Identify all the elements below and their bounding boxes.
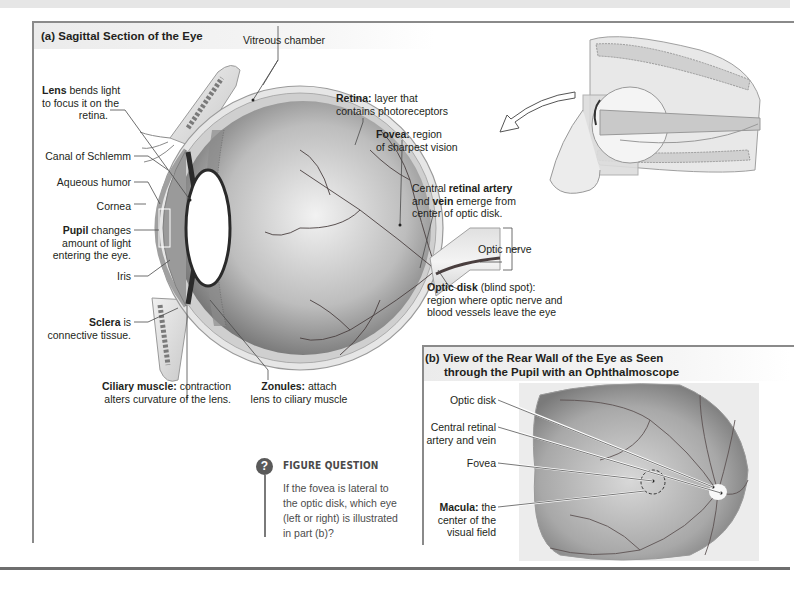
label-optic-nerve: Optic nerve <box>478 243 532 256</box>
label-b-optic-disk: Optic disk <box>420 394 496 407</box>
figure-question-title: FIGURE QUESTION <box>283 459 379 471</box>
figure-question-rule <box>264 475 266 537</box>
label-sclera: Sclera is connective tissue. <box>30 316 131 341</box>
label-retina: Retina: layer that contains photorecepto… <box>336 92 448 117</box>
aqueous-humor <box>163 150 186 306</box>
label-pupil: Pupil changes amount of light entering t… <box>30 224 131 262</box>
label-vitreous-chamber: Vitreous chamber <box>243 34 325 47</box>
label-b-fovea: Fovea <box>420 457 496 470</box>
label-ciliary-muscle: Ciliary muscle: contraction alters curva… <box>96 380 231 405</box>
label-central-retinal-artery: Central retinal artery and vein emerge f… <box>412 182 516 220</box>
label-optic-disk: Optic disk (blind spot): region where op… <box>427 281 562 319</box>
side-view-eye-orbit <box>550 37 760 194</box>
label-zonules: Zonules: attach lens to ciliary muscle <box>244 380 354 405</box>
question-icon: ? <box>256 458 273 475</box>
label-fovea: Fovea: region of sharpest vision <box>376 128 458 153</box>
label-iris: Iris <box>30 270 131 283</box>
label-lens: Lens bends light to focus it on the reti… <box>42 84 108 122</box>
label-b-macula: Macula: the center of the visual field <box>420 501 496 539</box>
direction-arrow <box>500 92 575 132</box>
label-canal-of-schlemm: Canal of Schlemm <box>30 150 131 163</box>
label-aqueous-humor: Aqueous humor <box>30 176 131 189</box>
label-b-central-retinal-artery: Central retinal artery and vein <box>420 421 496 446</box>
panel-b-title: (b) View of the Rear Wall of the Eye as … <box>425 351 679 379</box>
lens <box>186 170 230 286</box>
label-cornea: Cornea <box>30 200 131 213</box>
bottom-rule <box>0 567 790 570</box>
figure-question-text: If the fovea is lateral to the optic dis… <box>283 481 403 541</box>
